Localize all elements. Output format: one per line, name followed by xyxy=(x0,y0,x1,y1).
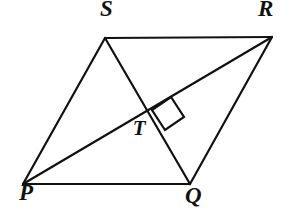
side-sr xyxy=(105,37,272,38)
figure-canvas xyxy=(0,0,290,211)
vertex-label-q: Q xyxy=(185,184,202,207)
vertex-label-p: P xyxy=(19,181,33,204)
geometry-figure: S R T P Q xyxy=(0,0,290,211)
vertex-label-t: T xyxy=(133,118,146,139)
vertex-label-r: R xyxy=(258,0,273,20)
vertex-label-s: S xyxy=(100,0,113,20)
